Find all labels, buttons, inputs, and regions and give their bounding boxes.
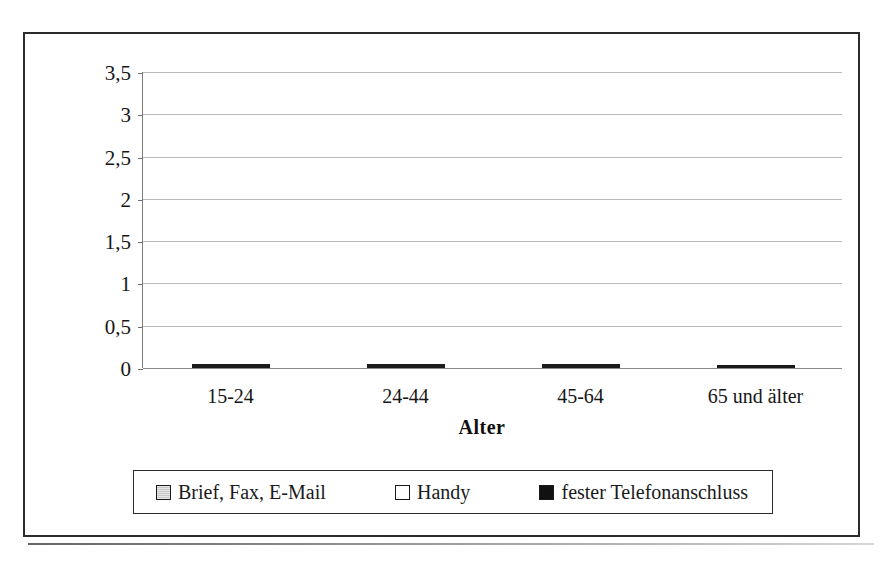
plot-area: 3,5 3 2,5 2 1,5 1 0,5 0 xyxy=(142,72,842,368)
legend-label-handy: Handy xyxy=(417,482,470,502)
ytick-label-1: 1 xyxy=(121,274,132,295)
bar-stack-24-44[interactable] xyxy=(367,364,445,368)
xtick-label-65-und-aelter: 65 und älter xyxy=(668,386,843,406)
bar-segment-brief-fax-email[interactable] xyxy=(192,366,270,368)
bar-stack-45-64[interactable] xyxy=(542,364,620,368)
white-swatch-icon xyxy=(395,485,410,500)
chart-frame: 3,5 3 2,5 2 1,5 1 0,5 0 xyxy=(23,32,860,537)
ytick-label-3-5: 3,5 xyxy=(105,63,131,84)
legend-item-handy[interactable]: Handy xyxy=(395,482,470,502)
xtick-label-15-24: 15-24 xyxy=(143,386,318,406)
bar-stack-15-24[interactable] xyxy=(192,364,270,368)
ytick-label-3: 3 xyxy=(121,105,132,126)
chart-legend: Brief, Fax, E-Mail Handy fester Telefona… xyxy=(133,470,773,514)
bar-segment-brief-fax-email[interactable] xyxy=(717,366,795,368)
bar-group-65-und-aelter: 65 und älter xyxy=(668,72,843,368)
gray-swatch-icon xyxy=(156,485,171,500)
ytick-label-2-5: 2,5 xyxy=(105,147,131,168)
bar-group-45-64: 45-64 xyxy=(493,72,668,368)
gridline-zero-baseline: 0 xyxy=(143,368,842,369)
legend-item-fester-telefonanschluss[interactable]: fester Telefonanschluss xyxy=(539,482,748,502)
legend-label-brief-fax-email: Brief, Fax, E-Mail xyxy=(178,482,326,502)
black-swatch-icon xyxy=(539,485,554,500)
tick-mark-0 xyxy=(138,369,143,370)
xtick-label-24-44: 24-44 xyxy=(318,386,493,406)
ytick-label-1-5: 1,5 xyxy=(105,232,131,253)
bar-group-15-24: 15-24 xyxy=(143,72,318,368)
ytick-label-0: 0 xyxy=(121,359,132,380)
bar-stack-65-und-aelter[interactable] xyxy=(717,365,795,368)
bar-segment-brief-fax-email[interactable] xyxy=(367,366,445,368)
bar-segment-brief-fax-email[interactable] xyxy=(542,366,620,368)
scan-artifact-rule xyxy=(28,543,874,545)
ytick-label-0-5: 0,5 xyxy=(105,316,131,337)
legend-label-fester-telefonanschluss: fester Telefonanschluss xyxy=(561,482,748,502)
bar-group-24-44: 24-44 xyxy=(318,72,493,368)
xtick-label-45-64: 45-64 xyxy=(493,386,668,406)
x-axis-title: Alter xyxy=(132,416,832,439)
ytick-label-2: 2 xyxy=(121,189,132,210)
legend-item-brief-fax-email[interactable]: Brief, Fax, E-Mail xyxy=(156,482,326,502)
